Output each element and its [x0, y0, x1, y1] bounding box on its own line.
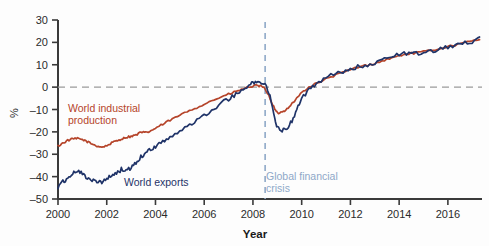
y-tick-label: 0 — [42, 81, 48, 93]
y-tick-label: 30 — [36, 14, 48, 26]
y-tick-label: –40 — [30, 171, 48, 183]
series-label-world-industrial-production-line1: World industrial — [68, 102, 140, 114]
chart-canvas: 3020100–10–20–30–40–50 20002002200420062… — [0, 0, 489, 246]
y-tick-label: –10 — [30, 104, 48, 116]
chart-figure: 3020100–10–20–30–40–50 20002002200420062… — [0, 0, 489, 246]
series-label-world-exports: World exports — [124, 176, 189, 188]
x-axis-title: Year — [243, 228, 268, 240]
x-tick-label: 2004 — [143, 208, 167, 220]
x-tick-label: 2010 — [289, 208, 313, 220]
y-tick-label: –50 — [30, 193, 48, 205]
series-label-world-industrial-production-line2: production — [68, 114, 117, 126]
y-axis-ticks: 3020100–10–20–30–40–50 — [30, 14, 58, 205]
annotation-crisis-line1: Global financial — [266, 170, 338, 182]
x-tick-label: 2012 — [338, 208, 362, 220]
y-axis-title: % — [8, 108, 20, 118]
x-tick-label: 2014 — [387, 208, 411, 220]
x-tick-label: 2006 — [192, 208, 216, 220]
annotation-crisis-line2: crisis — [266, 182, 290, 194]
x-axis-ticks: 200020022004200620082010201220142016 — [46, 199, 460, 220]
y-tick-label: 10 — [36, 59, 48, 71]
x-tick-label: 2002 — [94, 208, 118, 220]
y-tick-label: –30 — [30, 148, 48, 160]
x-tick-label: 2016 — [436, 208, 460, 220]
x-tick-label: 2000 — [46, 208, 70, 220]
x-tick-label: 2008 — [241, 208, 265, 220]
y-tick-label: 20 — [36, 36, 48, 48]
y-tick-label: –20 — [30, 126, 48, 138]
